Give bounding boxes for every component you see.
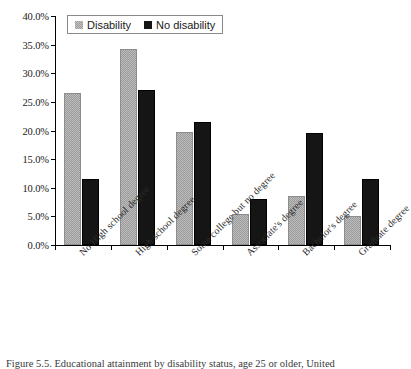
x-tick-mark [390, 245, 391, 250]
y-tick-mark [51, 188, 55, 189]
x-tick-mark [278, 245, 279, 250]
y-tick-label: 35.0% [22, 39, 49, 50]
bar-no-disability[interactable] [194, 122, 211, 245]
x-tick-mark [111, 245, 112, 250]
bar-disability[interactable] [344, 216, 361, 245]
x-tick-mark [55, 245, 56, 250]
y-tick-label: 5.0% [28, 211, 49, 222]
y-tick-mark [51, 45, 55, 46]
y-axis-line [55, 16, 56, 246]
y-tick-mark [51, 159, 55, 160]
y-tick-label: 30.0% [22, 68, 49, 79]
figure-caption: Figure 5.5. Educational attainment by di… [6, 357, 398, 369]
y-tick-mark [51, 16, 55, 17]
y-tick-mark [51, 216, 55, 217]
gray-checker-swatch [75, 21, 83, 29]
chart-legend: DisabilityNo disability [67, 15, 223, 34]
y-tick-label: 15.0% [22, 154, 49, 165]
black-swatch [144, 21, 152, 29]
x-tick-mark [167, 245, 168, 250]
legend-entry[interactable]: Disability [75, 19, 131, 31]
legend-label: No disability [156, 19, 215, 31]
bar-group [64, 16, 99, 245]
y-tick-mark [51, 73, 55, 74]
bar-no-disability[interactable] [138, 90, 155, 245]
y-tick-label: 0.0% [28, 240, 49, 251]
y-tick-label: 40.0% [22, 11, 49, 22]
y-tick-label: 25.0% [22, 96, 49, 107]
x-tick-mark [223, 245, 224, 250]
y-tick-label: 20.0% [22, 125, 49, 136]
y-tick-mark [51, 131, 55, 132]
legend-entry[interactable]: No disability [144, 19, 215, 31]
bar-disability[interactable] [64, 93, 81, 245]
bar-disability[interactable] [176, 132, 193, 245]
x-tick-mark [334, 245, 335, 250]
legend-label: Disability [87, 19, 131, 31]
y-tick-mark [51, 102, 55, 103]
y-tick-label: 10.0% [22, 182, 49, 193]
